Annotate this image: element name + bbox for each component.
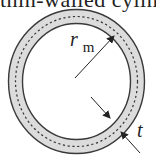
thickness-label: t [137,119,143,141]
mean-radius-symbol: r [70,28,78,50]
mean-radius-subscript: m [83,39,95,55]
tube-cross-section-diagram: r m t [0,0,156,161]
